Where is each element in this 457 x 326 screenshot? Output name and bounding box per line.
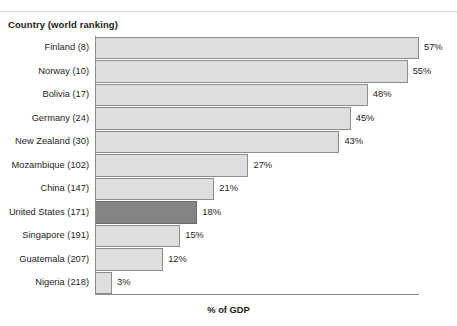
bar-category-label: Singapore (191): [22, 224, 89, 248]
x-axis-line: [95, 294, 419, 295]
bar-row: Finland (8)57%: [0, 36, 457, 60]
x-axis-title: % of GDP: [0, 305, 457, 315]
bar: [95, 248, 163, 271]
bar-value-label: 3%: [117, 271, 130, 295]
bar-value-label: 57%: [424, 36, 443, 60]
bar-category-label: China (147): [40, 177, 89, 201]
bar-category-label: Bolivia (17): [42, 83, 89, 107]
column-header-country: Country (world ranking): [8, 19, 118, 30]
y-axis-line: [95, 36, 96, 295]
bar-category-label: New Zealand (30): [15, 130, 89, 154]
bar-category-label: Finland (8): [45, 36, 89, 60]
bar-category-label: Mozambique (102): [11, 154, 89, 178]
bar-row: Nigeria (218)3%: [0, 271, 457, 295]
bar-chart-plot-area: Finland (8)57%Norway (10)55%Bolivia (17)…: [0, 36, 457, 295]
bar: [95, 225, 180, 248]
bar: [95, 178, 214, 201]
bar: [95, 154, 248, 177]
bar-value-label: 55%: [413, 60, 432, 84]
bar-row: Mozambique (102)27%: [0, 154, 457, 178]
bar-value-label: 48%: [373, 83, 392, 107]
chart-figure: Country (world ranking) Finland (8)57%No…: [0, 0, 457, 326]
bar: [95, 107, 351, 130]
bar-row: Germany (24)45%: [0, 107, 457, 131]
bar-value-label: 15%: [185, 224, 204, 248]
top-divider: [0, 11, 457, 12]
bar-value-label: 18%: [202, 201, 221, 225]
bar-row: Singapore (191)15%: [0, 224, 457, 248]
bar-category-label: Nigeria (218): [35, 271, 89, 295]
bar-value-label: 21%: [219, 177, 238, 201]
bar: [95, 60, 408, 83]
bar-category-label: Guatemala (207): [19, 248, 89, 272]
bar-row: New Zealand (30)43%: [0, 130, 457, 154]
bar-row: China (147)21%: [0, 177, 457, 201]
bar-value-label: 27%: [253, 154, 272, 178]
bar-category-label: Germany (24): [32, 107, 89, 131]
bar: [95, 131, 339, 154]
bar-value-label: 45%: [356, 107, 375, 131]
bar-category-label: Norway (10): [38, 60, 89, 84]
bar-row: Norway (10)55%: [0, 60, 457, 84]
bar-value-label: 43%: [344, 130, 363, 154]
bar-category-label: United States (171): [9, 201, 89, 225]
bar: [95, 37, 419, 60]
bar: [95, 272, 112, 295]
bar-value-label: 12%: [168, 248, 187, 272]
bar-row: United States (171)18%: [0, 201, 457, 225]
bar-highlighted: [95, 201, 197, 224]
bar-row: Guatemala (207)12%: [0, 248, 457, 272]
bar-row: Bolivia (17)48%: [0, 83, 457, 107]
bar: [95, 84, 368, 107]
